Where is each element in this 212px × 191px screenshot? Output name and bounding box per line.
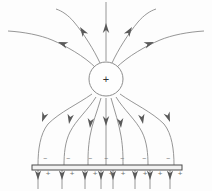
- plate-top-sign-5: −: [142, 155, 146, 162]
- plate-top-sign-6: −: [166, 155, 170, 162]
- plate-bottom-sign-3: +: [109, 169, 114, 178]
- plate-top-sign-0: −: [43, 155, 47, 162]
- plate-bottom-sign-1: +: [70, 169, 75, 178]
- plate-bottom-sign-0: +: [46, 169, 51, 178]
- plate-top-sign-1: −: [66, 155, 70, 162]
- point-charge-group: +: [89, 62, 123, 96]
- plate-bottom-sign-5: +: [143, 169, 148, 178]
- plate-top-sign-2: −: [88, 155, 92, 162]
- plate-top-sign-3: −: [104, 155, 108, 162]
- plate-bottom-sign-6: +: [158, 169, 163, 178]
- plate-top-sign-4: −: [120, 155, 124, 162]
- plate-bottom-sign-2: +: [93, 169, 98, 178]
- point-charge-label: +: [103, 73, 109, 85]
- field-diagram-figure: + −−−−−−−++++++++: [0, 0, 212, 191]
- plate-bottom-sign-7: +: [178, 169, 183, 178]
- electric-field-diagram: + −−−−−−−++++++++: [0, 0, 212, 191]
- plate-bottom-sign-4: +: [121, 169, 126, 178]
